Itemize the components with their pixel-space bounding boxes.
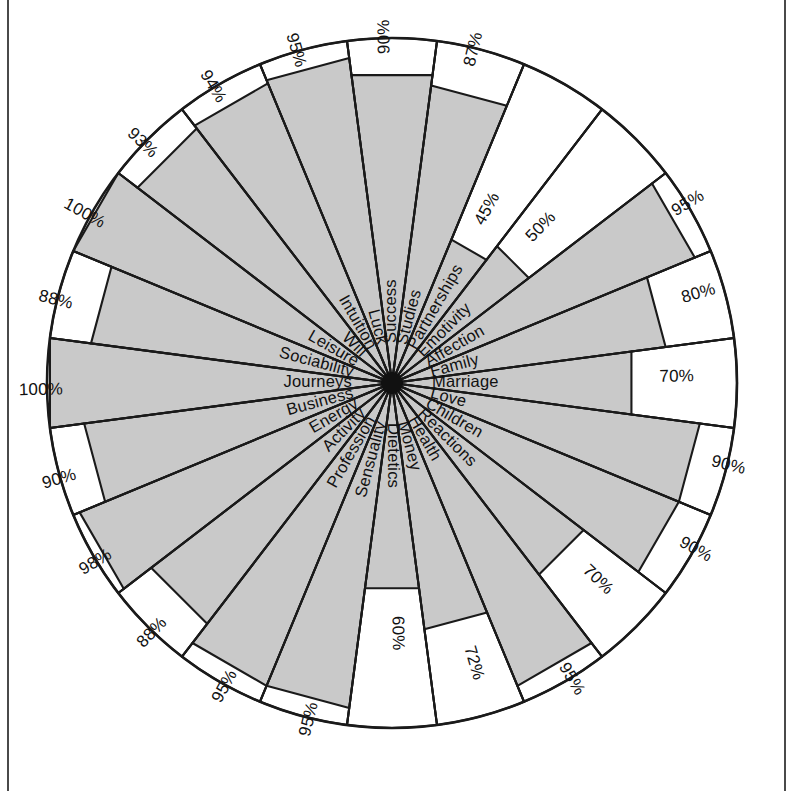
- sector-value-intuition: 94%: [196, 67, 230, 106]
- sector-value-health: 95%: [555, 659, 589, 698]
- sector-value-reactions: 70%: [579, 561, 617, 599]
- sector-value-studies: 87%: [460, 30, 487, 68]
- sector-value-marriage: 70%: [659, 366, 694, 386]
- page-root: SuccessStudiesPartnershipsEmotivityAffec…: [0, 0, 793, 791]
- sector-value-love: 90%: [709, 451, 747, 478]
- center-hub: [381, 372, 403, 394]
- sector-value-family: 80%: [679, 279, 718, 307]
- sector-value-business: 90%: [40, 465, 79, 493]
- life-wheel-chart: SuccessStudiesPartnershipsEmotivityAffec…: [0, 0, 793, 791]
- sector-value-profession: 95%: [208, 666, 241, 705]
- sector-value-luck: 95%: [282, 31, 310, 70]
- sector-value-will: 93%: [124, 124, 162, 162]
- sector-value-affection: 95%: [668, 186, 707, 220]
- sector-value-success: 90%: [374, 19, 394, 54]
- sector-value-sociability: 88%: [37, 286, 75, 313]
- sector-value-emotivity: 50%: [522, 207, 560, 245]
- sector-label-dietetics: Dietetics: [385, 423, 403, 488]
- life-wheel-svg: SuccessStudiesPartnershipsEmotivityAffec…: [0, 0, 793, 791]
- sector-value-money: 72%: [460, 644, 488, 683]
- sector-value-dietetics: 60%: [388, 616, 408, 651]
- sector-value-activity: 88%: [133, 613, 171, 651]
- sector-value-children: 90%: [676, 532, 715, 565]
- sector-value-partnerships: 45%: [470, 189, 503, 228]
- sector-value-journeys: 100%: [19, 379, 64, 399]
- sector-value-sensuality: 95%: [295, 700, 322, 738]
